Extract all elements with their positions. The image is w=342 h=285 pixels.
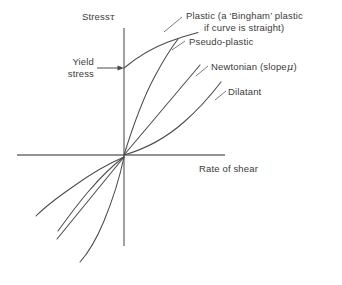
curve-label-newtonian: Newtonian (slopeμ)	[211, 61, 297, 73]
yield-stress-arrow-group	[97, 65, 124, 70]
yield-stress-label: Yield stress	[36, 56, 94, 79]
curve-dilatant	[124, 82, 221, 155]
leader-line-dilatant	[215, 91, 226, 100]
rheology-stress-shear-diagram: Stressτ Rate of shear Yield stress Plast…	[0, 0, 342, 285]
diagram-canvas	[0, 0, 342, 285]
tau-symbol: τ	[110, 12, 115, 22]
curve-newtonian	[124, 65, 200, 155]
curve-dilatant-negative	[80, 157, 124, 262]
x-axis-title: Rate of shear	[199, 163, 258, 175]
curve-label-plastic-line2: if curve is straight)	[186, 22, 284, 34]
curves-group	[124, 33, 221, 156]
curve-label-newtonian-text: Newtonian (slope	[211, 61, 287, 72]
curve-pseudo-plastic	[124, 39, 178, 155]
curve-label-dilatant: Dilatant	[228, 86, 261, 98]
y-axis-title: Stressτ	[82, 11, 115, 24]
leader-line-plastic	[164, 17, 182, 32]
curve-plastic	[124, 33, 198, 69]
curve-label-plastic-line1: Plastic (a ‘Bingham’ plastic	[186, 10, 303, 21]
yield-stress-arrowhead-icon	[118, 65, 125, 70]
curve-label-newtonian-close: )	[293, 61, 296, 72]
curve-label-plastic: Plastic (a ‘Bingham’ plastic if curve is…	[186, 10, 303, 33]
yield-stress-label-line1: Yield	[72, 56, 94, 67]
y-axis-title-text: Stress	[82, 11, 110, 22]
yield-stress-label-line2: stress	[68, 68, 94, 79]
curve-label-pseudo-plastic: Pseudo-plastic	[189, 36, 253, 48]
curve-plastic-negative	[36, 157, 124, 216]
curves-negative-group	[36, 157, 124, 262]
curve-newtonian-negative	[57, 157, 124, 239]
